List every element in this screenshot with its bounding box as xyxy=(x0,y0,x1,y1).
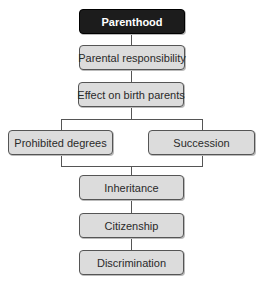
connector-join-to-n3 xyxy=(131,166,132,175)
connector-split-right-bottom xyxy=(202,155,203,166)
connector-root-to-n1 xyxy=(131,34,132,45)
node-inheritance: Inheritance xyxy=(79,175,184,200)
node-discrimination: Discrimination xyxy=(79,250,184,275)
connector-split-left-top xyxy=(61,119,62,130)
node-parenthood: Parenthood xyxy=(79,9,185,34)
connector-join-bottom xyxy=(61,166,203,167)
connector-split-right-top xyxy=(202,119,203,130)
node-prohibited-degrees: Prohibited degrees xyxy=(8,130,113,155)
connector-n2-to-split xyxy=(131,107,132,119)
connector-n4-to-n5 xyxy=(131,238,132,250)
connector-n3-to-n4 xyxy=(131,200,132,213)
node-effect-on-birth-parents: Effect on birth parents xyxy=(78,82,184,107)
node-succession: Succession xyxy=(148,130,255,155)
connector-split-top xyxy=(61,119,203,120)
node-parental-responsibility: Parental responsibility xyxy=(79,45,185,70)
node-citizenship: Citizenship xyxy=(79,213,184,238)
connector-n1-to-n2 xyxy=(131,70,132,82)
connector-split-left-bottom xyxy=(61,155,62,166)
